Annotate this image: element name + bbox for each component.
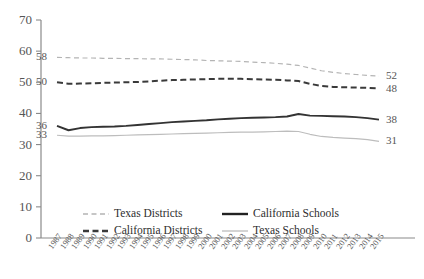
- series-end-value-label: 31: [386, 134, 397, 146]
- line-chart: 010203040506070 198719881989199019911992…: [0, 0, 424, 279]
- y-axis-tick-label: 0: [0, 230, 32, 246]
- y-axis-tick-label: 70: [0, 12, 32, 28]
- legend-item[interactable]: California Districts: [83, 222, 202, 239]
- legend-column-right: California SchoolsTexas Schools: [222, 205, 339, 239]
- y-axis-tick-label: 40: [0, 105, 32, 121]
- legend-item[interactable]: Texas Schools: [222, 222, 339, 239]
- series-end-value-label: 38: [386, 113, 397, 125]
- legend-item[interactable]: California Schools: [222, 205, 339, 222]
- legend-swatch-icon: [83, 226, 109, 236]
- y-axis-tick-label: 60: [0, 43, 32, 59]
- series-lines-layer: [57, 57, 379, 141]
- series-end-value-label: 52: [386, 69, 397, 81]
- series-start-value-label: 33: [36, 128, 47, 140]
- legend-swatch-icon: [222, 209, 248, 219]
- series-line: [57, 114, 379, 130]
- legend-line-icon: [83, 226, 109, 236]
- legend-swatch-icon: [222, 226, 248, 236]
- y-axis-tick-label: 50: [0, 74, 32, 90]
- series-line: [57, 57, 379, 76]
- legend-line-icon: [222, 226, 248, 236]
- legend-item-label: California Schools: [253, 208, 339, 219]
- y-axis-tick-label: 10: [0, 199, 32, 215]
- series-line: [57, 79, 379, 89]
- series-start-value-label: 58: [36, 50, 47, 62]
- legend-line-icon: [222, 209, 248, 219]
- legend-item-label: California Districts: [114, 225, 202, 236]
- series-start-value-label: 50: [36, 75, 47, 87]
- legend-line-icon: [83, 209, 109, 219]
- legend-item[interactable]: Texas Districts: [83, 205, 202, 222]
- legend-swatch-icon: [83, 209, 109, 219]
- series-end-value-label: 48: [386, 82, 397, 94]
- series-line: [57, 131, 379, 141]
- legend-column-left: Texas DistrictsCalifornia Districts: [83, 205, 202, 239]
- legend-item-label: Texas Districts: [114, 208, 183, 219]
- legend-item-label: Texas Schools: [253, 225, 319, 236]
- y-axis-tick-label: 20: [0, 168, 32, 184]
- y-axis-tick-label: 30: [0, 137, 32, 153]
